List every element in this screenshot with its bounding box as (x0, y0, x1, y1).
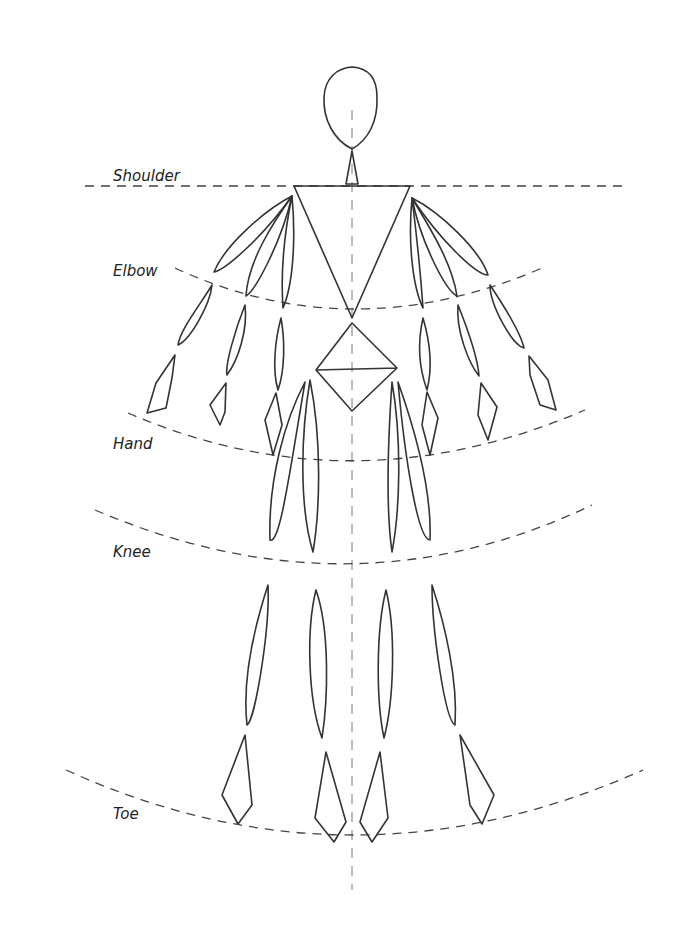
left-forearms (178, 285, 284, 390)
right-hands (422, 356, 556, 455)
knee-label: Knee (113, 543, 151, 561)
hand-guide-arc (128, 410, 585, 461)
head-oval (324, 67, 377, 149)
right-forearms (420, 285, 524, 390)
knee-guide-arc (95, 505, 592, 564)
thighs (270, 380, 430, 552)
shins (246, 585, 456, 738)
hand-label: Hand (113, 435, 153, 453)
pelvis-diamond (316, 323, 397, 411)
left-hands (147, 355, 282, 455)
left-upper-arms (214, 196, 294, 308)
toe-guide-arc (66, 770, 643, 835)
toe-label: Toe (113, 805, 139, 823)
shoulder-label: Shoulder (113, 167, 180, 185)
feet (222, 735, 494, 842)
figure-drawing (0, 0, 678, 932)
elbow-label: Elbow (113, 262, 158, 280)
